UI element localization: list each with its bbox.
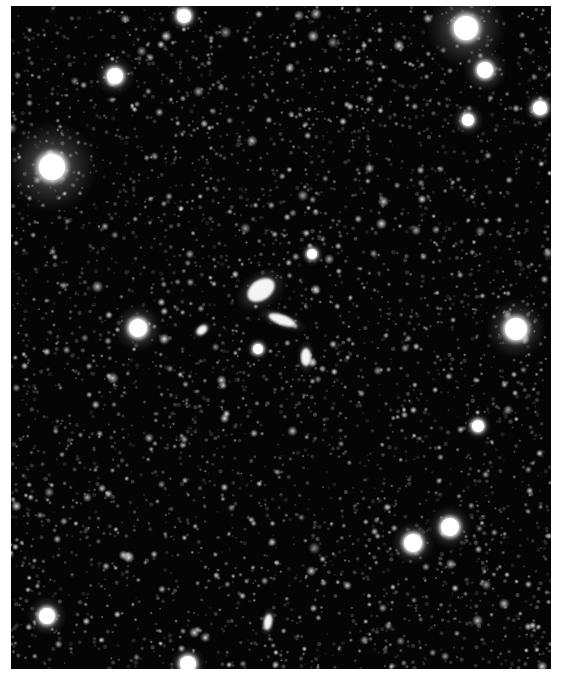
noise-speck	[28, 94, 32, 98]
faint-star	[368, 566, 373, 571]
noise-speck	[425, 499, 427, 501]
noise-speck	[349, 631, 352, 634]
faint-star	[390, 484, 394, 488]
noise-speck	[358, 461, 362, 465]
noise-speck	[494, 128, 498, 132]
noise-speck	[153, 650, 155, 652]
noise-speck	[153, 120, 157, 124]
faint-star	[283, 366, 286, 369]
faint-star	[492, 355, 495, 358]
noise-speck	[223, 156, 227, 160]
noise-speck	[245, 484, 248, 487]
faint-star	[237, 257, 242, 262]
faint-star	[286, 99, 290, 103]
noise-speck	[124, 141, 128, 145]
noise-speck	[79, 538, 81, 540]
noise-speck	[213, 436, 217, 440]
faint-star	[388, 643, 392, 647]
noise-speck	[371, 429, 375, 433]
noise-speck	[336, 352, 340, 356]
faint-star	[157, 628, 162, 633]
noise-speck	[30, 407, 34, 411]
noise-speck	[536, 641, 539, 644]
faint-star	[179, 95, 186, 102]
noise-speck	[236, 278, 240, 282]
noise-speck	[230, 153, 233, 156]
faint-star	[362, 47, 366, 51]
noise-speck	[33, 373, 36, 376]
faint-star	[465, 402, 471, 408]
noise-speck	[31, 36, 35, 40]
faint-star	[157, 216, 160, 219]
noise-speck	[423, 455, 426, 458]
noise-speck	[476, 510, 479, 513]
noise-speck	[225, 654, 227, 656]
noise-speck	[77, 455, 79, 457]
faint-star	[60, 281, 68, 289]
noise-speck	[293, 543, 295, 545]
noise-speck	[382, 530, 384, 532]
noise-speck	[79, 282, 82, 285]
noise-speck	[488, 412, 490, 414]
noise-speck	[456, 386, 459, 389]
noise-speck	[20, 238, 23, 241]
noise-speck	[273, 122, 276, 125]
noise-speck	[110, 216, 114, 220]
noise-speck	[480, 304, 482, 306]
noise-speck	[62, 34, 65, 37]
noise-speck	[272, 33, 274, 35]
noise-speck	[540, 422, 544, 426]
faint-star	[231, 574, 236, 579]
noise-speck	[133, 128, 136, 131]
noise-speck	[90, 372, 93, 375]
faint-star	[195, 389, 200, 394]
faint-star	[304, 305, 307, 308]
noise-speck	[199, 359, 202, 362]
noise-speck	[151, 95, 155, 99]
noise-speck	[17, 15, 19, 17]
noise-speck	[189, 109, 193, 113]
noise-speck	[452, 593, 454, 595]
noise-speck	[332, 402, 336, 406]
faint-star	[21, 435, 25, 439]
faint-star	[258, 69, 263, 74]
noise-speck	[22, 249, 26, 253]
noise-speck	[272, 172, 275, 175]
noise-speck	[492, 641, 494, 643]
noise-speck	[430, 615, 433, 618]
noise-speck	[17, 455, 19, 457]
faint-star	[220, 496, 226, 502]
noise-speck	[277, 444, 279, 446]
noise-speck	[23, 317, 27, 321]
noise-speck	[495, 270, 499, 274]
noise-speck	[389, 557, 393, 561]
noise-speck	[501, 527, 503, 529]
noise-speck	[51, 6, 55, 10]
faint-star	[499, 541, 503, 545]
faint-star	[206, 53, 211, 58]
noise-speck	[202, 397, 206, 401]
faint-star	[116, 463, 121, 468]
noise-speck	[20, 624, 22, 626]
noise-speck	[166, 447, 169, 450]
noise-speck	[307, 188, 310, 191]
noise-speck	[218, 587, 220, 589]
noise-speck	[326, 131, 328, 133]
faint-star	[52, 427, 59, 434]
noise-speck	[328, 444, 330, 446]
noise-speck	[129, 178, 132, 181]
faint-star	[73, 56, 76, 59]
noise-speck	[450, 186, 454, 190]
faint-star	[312, 527, 315, 530]
faint-star	[185, 249, 195, 259]
faint-star	[438, 167, 441, 170]
noise-speck	[62, 273, 64, 275]
noise-speck	[300, 307, 303, 310]
faint-star	[61, 72, 65, 76]
faint-star	[154, 351, 158, 355]
faint-star	[347, 325, 351, 329]
noise-speck	[298, 107, 302, 111]
noise-speck	[52, 421, 54, 423]
noise-speck	[200, 560, 203, 563]
faint-star	[209, 176, 213, 180]
